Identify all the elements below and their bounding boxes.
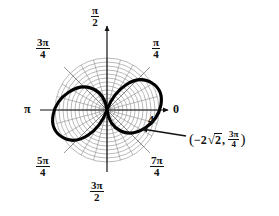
axis-label-7pi-over-4-numerator: 7π — [150, 155, 164, 166]
annotation-radical: √2 — [207, 133, 222, 146]
axis-label-5pi-over-4-numerator: 5π — [36, 155, 50, 166]
annotation-leader-line — [142, 129, 186, 136]
annotation-comma: , — [222, 134, 225, 146]
axis-label-5pi-over-4: 5π 4 — [36, 155, 50, 178]
annotation-close-paren: ) — [240, 132, 245, 147]
axis-label-3pi-over-4: 3π 4 — [36, 37, 50, 60]
axis-label-pi-over-2-denominator: 2 — [91, 16, 99, 28]
axis-label-5pi-over-4-denominator: 4 — [36, 166, 50, 178]
axis-label-3pi-over-2: 3π 2 — [90, 180, 104, 203]
axis-label-3pi-over-4-denominator: 4 — [36, 48, 50, 60]
axis-label-pi-over-2: π 2 — [91, 5, 99, 28]
axis-label-7pi-over-4: 7π 4 — [150, 155, 164, 178]
axis-label-zero: 0 — [173, 103, 179, 115]
axis-label-3pi-over-2-numerator: 3π — [90, 180, 104, 191]
point-annotation: ( −2 √2 , 3π 4 ) — [189, 130, 245, 149]
axis-label-pi-over-2-numerator: π — [91, 5, 99, 16]
annotation-angle-numerator: 3π — [228, 130, 239, 139]
axis-label-7pi-over-4-denominator: 4 — [150, 166, 164, 178]
annotation-angle: 3π 4 — [228, 130, 239, 149]
annotation-angle-denominator: 4 — [228, 139, 239, 149]
axis-label-pi-over-4-numerator: π — [152, 37, 160, 48]
axis-label-3pi-over-2-denominator: 2 — [90, 191, 104, 203]
radial-tick-label-4: 4 — [148, 114, 154, 126]
polar-graph-figure: π 2 3π 4 π 4 π 0 5π 4 7π 4 3π 2 — [0, 0, 279, 216]
polar-plot-canvas — [0, 0, 279, 216]
annotation-radicand: 2 — [214, 133, 222, 146]
axis-label-pi-over-4-denominator: 4 — [152, 48, 160, 60]
axis-label-3pi-over-4-numerator: 3π — [36, 37, 50, 48]
annotation-coefficient: −2 — [194, 134, 207, 146]
axis-label-pi: π — [24, 103, 31, 115]
axis-label-pi-over-4: π 4 — [152, 37, 160, 60]
